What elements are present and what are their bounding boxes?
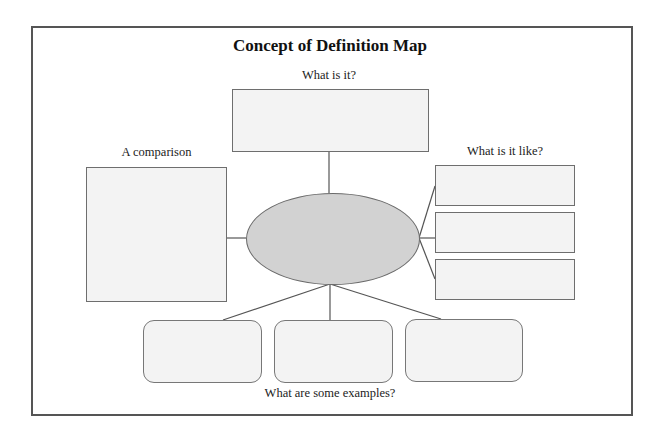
box-what-is-it-like-3[interactable] (435, 259, 575, 300)
label-examples: What are some examples? (230, 386, 430, 401)
box-comparison[interactable] (86, 167, 227, 302)
label-comparison: A comparison (86, 145, 227, 160)
connector-example-3 (330, 284, 441, 319)
box-what-is-it-like-1[interactable] (435, 165, 575, 206)
box-what-is-it-like-2[interactable] (435, 212, 575, 253)
box-example-1[interactable] (143, 320, 262, 383)
label-what-is-it: What is it? (229, 68, 429, 83)
connector-like-3 (419, 238, 435, 279)
diagram-title: Concept of Definition Map (0, 36, 660, 56)
box-example-2[interactable] (274, 320, 393, 383)
connector-example-1 (223, 284, 330, 320)
label-what-is-it-like: What is it like? (435, 144, 575, 159)
box-what-is-it[interactable] (232, 89, 429, 152)
connector-like-1 (419, 186, 435, 238)
center-concept-ellipse[interactable] (246, 193, 420, 285)
box-example-3[interactable] (405, 319, 523, 382)
